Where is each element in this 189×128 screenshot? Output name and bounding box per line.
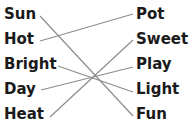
right-word-fun: Fun [136,105,167,123]
line-hot-pot [40,14,133,41]
left-word-heat: Heat [4,105,44,123]
right-word-pot: Pot [136,5,164,23]
line-heat-sweet [50,40,133,117]
word-matching-diagram: Sun Hot Bright Day Heat Pot Sweet Play L… [0,0,189,128]
right-word-sweet: Sweet [136,30,188,48]
left-word-day: Day [4,80,36,98]
right-word-play: Play [136,55,172,73]
left-word-hot: Hot [4,30,34,48]
left-word-bright: Bright [4,55,57,73]
right-word-light: Light [136,80,179,98]
left-word-sun: Sun [4,5,36,23]
